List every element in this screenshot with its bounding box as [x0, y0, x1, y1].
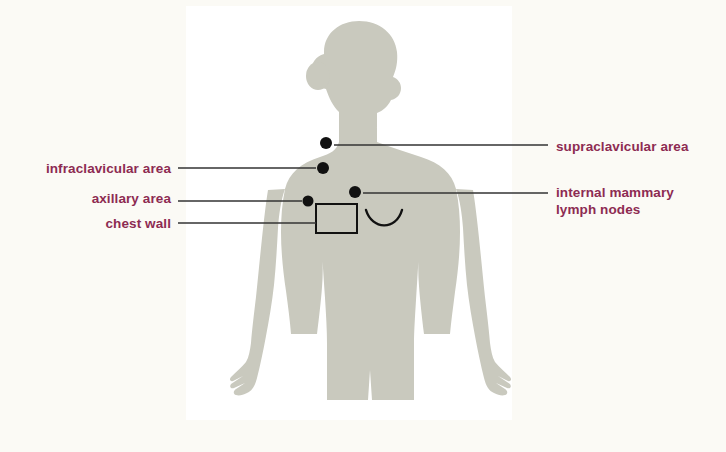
diagram-root: supraclavicular area internal mammary ly… — [0, 0, 726, 452]
label-axillary-area: axillary area — [92, 190, 171, 207]
label-line: internal mammary — [556, 184, 674, 201]
label-chest-wall: chest wall — [105, 215, 171, 232]
marker-internal-mammary — [349, 186, 361, 198]
label-line: infraclavicular area — [46, 160, 171, 177]
marker-infraclavicular — [317, 162, 329, 174]
label-internal-mammary-lymph-nodes: internal mammary lymph nodes — [556, 184, 674, 218]
label-line: lymph nodes — [556, 201, 674, 218]
marker-axillary — [303, 196, 314, 207]
marker-supraclavicular — [320, 137, 332, 149]
label-line: chest wall — [105, 215, 171, 232]
label-supraclavicular-area: supraclavicular area — [556, 138, 689, 155]
hair-bun — [306, 62, 330, 90]
label-line: axillary area — [92, 190, 171, 207]
label-line: supraclavicular area — [556, 138, 689, 155]
label-infraclavicular-area: infraclavicular area — [46, 160, 171, 177]
